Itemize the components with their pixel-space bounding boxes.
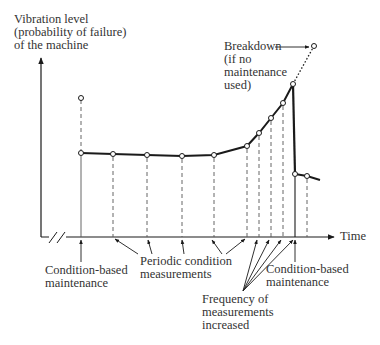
breakdown-label-line-4: used) — [224, 79, 287, 92]
y-axis-label-line-3: of the machine — [14, 39, 126, 52]
frequency-label: Frequency of measurements increased — [202, 293, 274, 332]
breakdown-label: Breakdown (if no maintenance used) — [224, 40, 287, 92]
axes — [41, 58, 334, 243]
cbm-right-label-line-2: maintenance — [266, 276, 349, 289]
y-axis-label: Vibration level (probability of failure)… — [14, 13, 126, 52]
breakdown-extrapolation — [293, 46, 314, 84]
breakdown-point — [312, 44, 317, 49]
x-axis-label: Time — [340, 230, 366, 243]
measurement-lines — [81, 100, 307, 237]
axis-break-icon — [49, 232, 66, 243]
periodic-label: Periodic condition measurements — [140, 255, 232, 281]
cbm-left-label: Condition-based maintenance — [45, 264, 128, 290]
cbm-right-label: Condition-based maintenance — [266, 263, 349, 289]
frequency-label-line-3: increased — [202, 319, 274, 332]
cbm-left-label-line-2: maintenance — [45, 277, 128, 290]
periodic-label-line-2: measurements — [140, 268, 232, 281]
